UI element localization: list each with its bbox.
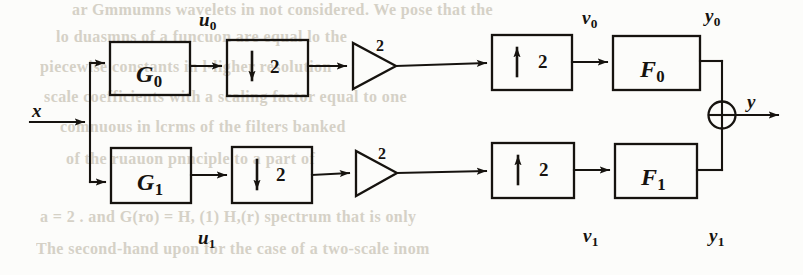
signal-label-u1-sub: 1 [209, 236, 216, 251]
signal-label-v0-sub: 0 [591, 16, 598, 31]
block-label-f0-sub: 0 [656, 67, 664, 86]
block-label-f0-base: F [640, 56, 656, 82]
block-label-f1-base: F [641, 164, 657, 190]
signal-label-u1-base: u [198, 227, 209, 248]
upsample-factor-lower: 2 [539, 160, 549, 179]
signal-label-y0-sub: 0 [714, 14, 721, 29]
signal-label-v1-base: v [583, 225, 591, 246]
block-label-f1-sub: 1 [657, 175, 665, 194]
signal-label-v1-sub: 1 [592, 234, 599, 249]
label-input-x: x [32, 101, 42, 120]
downsample-factor-upper: 2 [270, 57, 280, 76]
signal-label-y1-sub: 1 [718, 234, 725, 249]
signal-label-v1: v1 [583, 226, 598, 248]
downsample-factor-lower: 2 [276, 165, 286, 184]
block-label-g1: G1 [137, 170, 163, 199]
label-output-y: y [747, 92, 755, 111]
signal-label-y1: y1 [709, 226, 724, 248]
signal-label-y1-base: y [709, 225, 717, 246]
amplifier-gain-lower: 2 [378, 146, 386, 162]
signal-label-y0: y0 [705, 6, 720, 28]
figure-canvas: ar Gmmumns wavelets in not considered. W… [0, 0, 803, 275]
upsample-factor-upper: 2 [538, 52, 548, 71]
block-diagram [0, 0, 803, 275]
block-label-g0: G0 [136, 62, 162, 91]
signal-label-v0: v0 [582, 8, 597, 30]
block-label-g0-base: G [136, 61, 153, 87]
signal-label-u0: u0 [199, 10, 217, 32]
block-label-g1-sub: 1 [155, 180, 163, 199]
signal-label-u1: u1 [198, 228, 216, 250]
signal-label-v0-base: v [582, 7, 590, 28]
block-label-g1-base: G [137, 169, 154, 195]
signal-label-y0-base: y [705, 5, 713, 26]
block-label-f0: F0 [640, 57, 665, 86]
signal-label-u0-sub: 0 [210, 18, 217, 33]
block-label-g0-sub: 0 [154, 72, 162, 91]
block-label-f1: F1 [641, 165, 666, 194]
amplifier-gain-upper: 2 [376, 38, 384, 54]
signal-label-u0-base: u [199, 9, 210, 30]
